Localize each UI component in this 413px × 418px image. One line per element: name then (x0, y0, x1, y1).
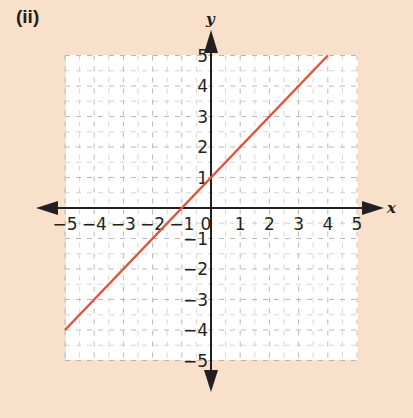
x-tick-label: 2 (264, 214, 275, 234)
y-tick-label: −5 (183, 351, 208, 371)
x-tick-label: 4 (322, 214, 333, 234)
x-tick-label: 1 (235, 214, 246, 234)
y-axis-label: y (205, 10, 216, 28)
y-tick-label: 2 (197, 137, 208, 157)
y-tick-label: −2 (183, 259, 208, 279)
x-tick-label: −4 (82, 214, 107, 234)
x-tick-label: −3 (111, 214, 136, 234)
y-tick-label: −3 (183, 290, 208, 310)
line-chart: x y −5−4−3−2−101234554321−1−2−3−4−5 (0, 0, 413, 418)
y-tick-label: 5 (197, 46, 208, 66)
x-axis-right-arrow-icon (362, 201, 384, 215)
y-axis-down-arrow-icon (204, 370, 218, 392)
y-tick-label: −1 (183, 229, 208, 249)
x-tick-label: 3 (293, 214, 304, 234)
y-tick-label: 3 (197, 107, 208, 127)
x-axis-left-arrow-icon (36, 201, 58, 215)
x-tick-label: −5 (52, 214, 77, 234)
y-tick-label: −4 (183, 320, 208, 340)
x-tick-label: 5 (352, 214, 363, 234)
y-tick-label: 4 (197, 76, 208, 96)
x-axis-label: x (386, 199, 397, 217)
